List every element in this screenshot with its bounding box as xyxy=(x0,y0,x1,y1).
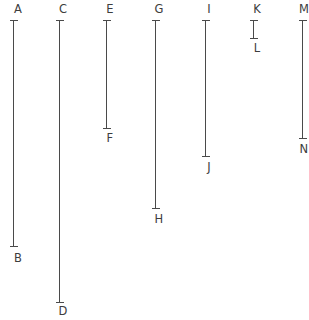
segment-label-J: J xyxy=(198,161,220,173)
segment-label-K: K xyxy=(246,3,268,15)
segment-label-A: A xyxy=(7,3,29,15)
segment-label-H: H xyxy=(148,213,170,225)
segment-GH xyxy=(152,20,160,209)
segment-label-F: F xyxy=(99,132,121,144)
segment-label-N: N xyxy=(293,143,309,155)
segment-label-B: B xyxy=(7,252,29,264)
segment-label-E: E xyxy=(99,3,121,15)
segment-label-L: L xyxy=(246,42,268,54)
segment-AB xyxy=(10,20,18,247)
segment-EF xyxy=(103,20,111,129)
segment-label-C: C xyxy=(52,3,74,15)
segment-MN xyxy=(299,20,307,139)
segment-IJ xyxy=(202,20,210,157)
segment-label-D: D xyxy=(52,305,74,317)
segment-label-G: G xyxy=(148,3,170,15)
segment-label-M: M xyxy=(293,3,309,15)
line-segment-diagram: ABCDEFGHIJKLMN xyxy=(0,0,309,320)
segment-KL xyxy=(250,20,258,39)
segment-CD xyxy=(56,20,64,303)
segment-label-I: I xyxy=(198,3,220,15)
